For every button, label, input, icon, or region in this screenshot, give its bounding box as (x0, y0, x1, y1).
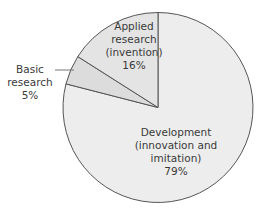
label-basic-research: Basic research 5% (2, 63, 58, 102)
label-applied-research: Applied research (invention) 16% (98, 20, 170, 72)
label-development: Development (innovation and imitation) 7… (120, 126, 232, 178)
